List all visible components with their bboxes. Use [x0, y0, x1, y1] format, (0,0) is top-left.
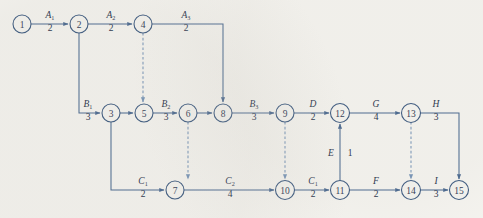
edge-label-A3: A3 2: [181, 10, 191, 33]
edge-label-A1-duration: 2: [48, 23, 53, 33]
node-10-label: 10: [280, 186, 290, 196]
edge-label-I-duration: 3: [434, 189, 439, 199]
node-12-label: 12: [335, 109, 345, 119]
edge-label-B3: B3 3: [250, 99, 259, 122]
node-3-label: 3: [109, 109, 114, 119]
node-14-label: 14: [406, 186, 416, 196]
node-13[interactable]: 13: [402, 104, 421, 123]
node-3[interactable]: 3: [102, 104, 120, 122]
node-5-label: 5: [142, 109, 147, 119]
node-2-label: 2: [77, 20, 82, 30]
edge-label-G: G 4: [373, 99, 380, 122]
node-10[interactable]: 10: [276, 181, 295, 200]
node-4-label: 4: [141, 20, 146, 30]
network-diagram-canvas: 1 2 4 3 5 6 8: [0, 0, 483, 218]
node-6[interactable]: 6: [179, 104, 197, 122]
edge-label-C1-duration: 2: [141, 189, 146, 199]
node-12[interactable]: 12: [331, 104, 350, 123]
edge-label-C2: C2 4: [225, 176, 234, 199]
edge-label-C3: C1 2: [308, 176, 317, 199]
edge-labels-group: A1 2 A2 2 A3 2 B1 3: [45, 10, 441, 199]
edge-label-A3-name: A3: [181, 10, 191, 21]
node-11-label: 11: [335, 186, 344, 196]
edge-label-E-name: E: [327, 148, 334, 158]
node-8-label: 8: [221, 109, 226, 119]
edge-label-G-duration: 4: [374, 112, 379, 122]
edge-label-I: I 3: [433, 176, 438, 199]
node-1-label: 1: [20, 20, 25, 30]
edge-label-B2-duration: 3: [164, 112, 169, 122]
edge-label-D-name: D: [309, 99, 317, 109]
edge-label-D: D 2: [309, 99, 317, 122]
node-11[interactable]: 11: [331, 181, 350, 200]
edge-label-A2-name: A2: [106, 10, 116, 21]
node-2[interactable]: 2: [70, 15, 88, 33]
node-9-label: 9: [283, 109, 288, 119]
node-7-label: 7: [173, 186, 178, 196]
edge-label-C2-duration: 4: [228, 189, 233, 199]
node-4[interactable]: 4: [134, 15, 152, 33]
edge-label-D-duration: 2: [311, 112, 316, 122]
nodes-group: 1 2 4 3 5 6 8: [13, 15, 469, 200]
node-14[interactable]: 14: [402, 181, 421, 200]
solid-edges-group: [31, 24, 459, 190]
edge-label-C3-name: C1: [308, 176, 317, 187]
edge-label-G-name: G: [373, 99, 380, 109]
edge-label-F-duration: 2: [374, 189, 379, 199]
edge-label-A2-duration: 2: [109, 23, 114, 33]
node-1[interactable]: 1: [13, 15, 31, 33]
edge-label-B1-name: B1: [84, 99, 93, 110]
node-8[interactable]: 8: [214, 104, 232, 122]
edge-label-A1: A1 2: [45, 10, 55, 33]
edge-label-C1: C1 2: [138, 176, 147, 199]
edge-label-B3-duration: 3: [252, 112, 257, 122]
edge-label-A3-duration: 2: [184, 23, 189, 33]
edge-4-to-8: [152, 24, 223, 102]
edge-label-I-name: I: [433, 176, 438, 186]
node-9[interactable]: 9: [276, 104, 294, 122]
edge-label-B1-duration: 3: [86, 112, 91, 122]
node-5[interactable]: 5: [135, 104, 153, 122]
edge-label-H: H 3: [432, 99, 441, 122]
node-13-label: 13: [406, 109, 416, 119]
edge-13-to-15: [420, 113, 459, 179]
edge-label-C2-name: C2: [225, 176, 234, 187]
edge-label-C1-name: C1: [138, 176, 147, 187]
node-15[interactable]: 15: [450, 181, 469, 200]
edge-label-H-duration: 3: [434, 112, 439, 122]
node-6-label: 6: [186, 109, 191, 119]
node-15-label: 15: [454, 186, 464, 196]
edge-label-B2: B2 3: [162, 99, 171, 122]
edge-label-B1: B1 3: [84, 99, 93, 122]
node-7[interactable]: 7: [166, 181, 184, 199]
edge-label-A1-name: A1: [45, 10, 55, 21]
edge-label-E-duration: 1: [348, 148, 353, 158]
edge-label-B2-name: B2: [162, 99, 171, 110]
edge-label-F-name: F: [372, 176, 379, 186]
edge-label-A2: A2 2: [106, 10, 116, 33]
edge-label-B3-name: B3: [250, 99, 259, 110]
edge-label-H-name: H: [432, 99, 441, 109]
edge-label-C3-duration: 2: [311, 189, 316, 199]
edge-label-F: F 2: [372, 176, 379, 199]
network-diagram-page: 1 2 4 3 5 6 8: [0, 0, 483, 218]
edge-2-to-3: [79, 33, 100, 113]
